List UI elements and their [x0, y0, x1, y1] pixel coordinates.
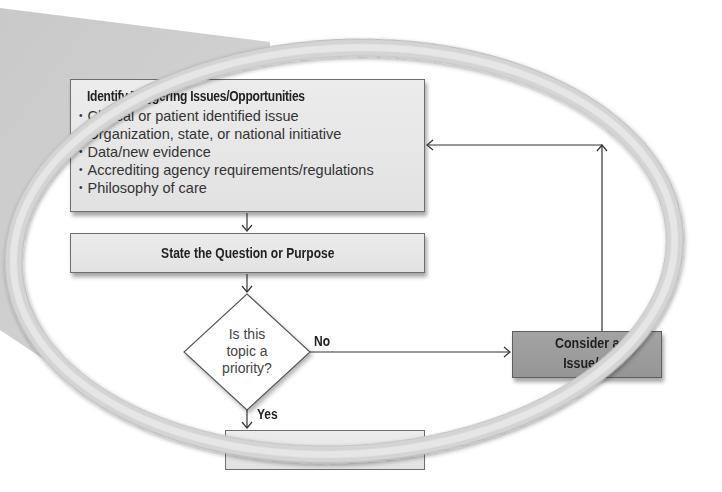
- lens-outer-mask: [0, 0, 722, 492]
